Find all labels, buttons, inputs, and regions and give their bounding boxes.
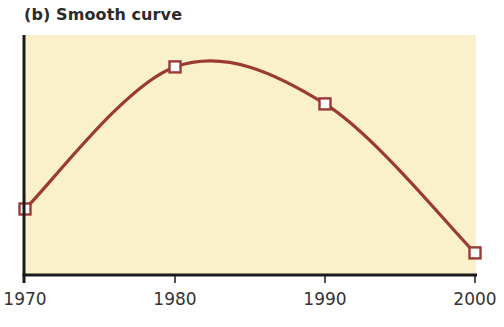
smooth-curve-chart: 1970198019902000: [0, 0, 504, 327]
x-tick-label: 1980: [153, 289, 196, 309]
plot-area: [24, 35, 476, 275]
data-point-marker-1980: [170, 61, 181, 72]
x-tick-label: 2000: [453, 289, 496, 309]
x-tick-label: 1970: [3, 289, 46, 309]
x-axis-ticks: 1970198019902000: [3, 275, 496, 309]
x-tick-label: 1990: [303, 289, 346, 309]
data-point-marker-2000: [470, 247, 481, 258]
data-point-marker-1990: [320, 98, 331, 109]
